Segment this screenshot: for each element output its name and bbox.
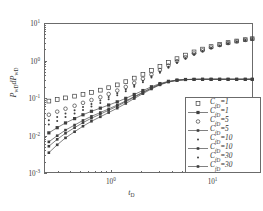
legend-marker-icon-2 <box>186 117 210 126</box>
y-tick-mark-4 <box>44 173 47 174</box>
x-minor-tick-7 <box>141 171 142 173</box>
chart-legend: CfD=1CfD=1CfD=5CfD=5CfD=10CfD=10CfD=30Cf… <box>185 97 261 173</box>
y-minor-tick-19 <box>44 72 46 73</box>
legend-marker-icon-3 <box>186 126 210 135</box>
x-minor-tick-0 <box>58 171 59 173</box>
legend-marker-icon-6 <box>186 153 210 162</box>
y-minor-tick-29 <box>44 29 46 30</box>
legend-marker-icon-1 <box>186 108 210 117</box>
x-tick-label-1: 101 <box>193 177 233 187</box>
y-minor-tick-6 <box>44 139 46 140</box>
legend-marker-icon-5 <box>186 144 210 153</box>
x-minor-tick-3 <box>88 171 89 173</box>
y-minor-tick-0 <box>44 162 46 163</box>
chart-root: 10110010-110-210-3 100101 tD PwDdPwD CfD… <box>0 0 263 211</box>
x-tick-label-0: 100 <box>91 177 131 187</box>
y-minor-tick-8 <box>44 124 46 125</box>
y-tick-label-1: 100 <box>0 57 40 67</box>
x-tick-mark-0 <box>111 170 112 173</box>
x-minor-tick-5 <box>101 171 102 173</box>
y-minor-tick-11 <box>44 109 46 110</box>
y-axis-title-p2: dP <box>9 76 18 85</box>
y-minor-tick-5 <box>44 141 46 142</box>
x-minor-tick-4 <box>95 171 96 173</box>
y-minor-tick-17 <box>44 80 46 81</box>
series-0 <box>47 37 254 103</box>
legend-marker-icon-0 <box>186 99 210 108</box>
legend-label-7: CfD=30 <box>210 160 233 172</box>
y-minor-tick-7 <box>44 137 46 138</box>
y-minor-tick-13 <box>44 104 46 105</box>
y-tick-label-3: 10-2 <box>0 132 40 142</box>
x-minor-tick-10 <box>182 171 183 173</box>
y-tick-label-0: 101 <box>0 19 40 29</box>
y-minor-tick-3 <box>44 147 46 148</box>
x-minor-tick-8 <box>159 171 160 173</box>
y-minor-tick-12 <box>44 106 46 107</box>
x-minor-tick-9 <box>172 171 173 173</box>
y-minor-tick-21 <box>44 66 46 67</box>
y-axis-title-p1: P <box>9 93 18 98</box>
x-axis-title-sub: D <box>131 192 135 198</box>
y-axis-title-sub2: wD <box>12 68 18 76</box>
y-minor-tick-28 <box>44 31 46 32</box>
y-minor-tick-27 <box>44 34 46 35</box>
y-minor-tick-2 <box>44 150 46 151</box>
x-minor-tick-2 <box>80 171 81 173</box>
y-minor-tick-16 <box>44 87 46 88</box>
y-minor-tick-24 <box>44 49 46 50</box>
legend-marker-icon-4 <box>186 135 210 144</box>
y-minor-tick-4 <box>44 144 46 145</box>
y-minor-tick-18 <box>44 75 46 76</box>
y-minor-tick-31 <box>44 25 46 26</box>
y-minor-tick-22 <box>44 64 46 65</box>
legend-marker-icon-7 <box>186 162 210 171</box>
y-axis-title: PwDdPwD <box>9 40 18 126</box>
y-tick-label-2: 10-1 <box>0 94 40 104</box>
y-minor-tick-10 <box>44 113 46 114</box>
y-minor-tick-25 <box>44 43 46 44</box>
y-minor-tick-26 <box>44 38 46 39</box>
y-minor-tick-14 <box>44 102 46 103</box>
x-minor-tick-1 <box>70 171 71 173</box>
y-minor-tick-15 <box>44 100 46 101</box>
y-tick-label-4: 10-3 <box>0 169 40 179</box>
legend-item-7[interactable]: CfD=30 <box>186 162 260 171</box>
y-minor-tick-20 <box>44 69 46 70</box>
y-axis-title-sub1: wD <box>12 85 18 93</box>
x-axis-title: tD <box>0 188 263 197</box>
x-minor-tick-6 <box>106 171 107 173</box>
y-minor-tick-9 <box>44 118 46 119</box>
y-minor-tick-30 <box>44 27 46 28</box>
y-minor-tick-23 <box>44 62 46 63</box>
y-minor-tick-1 <box>44 155 46 156</box>
